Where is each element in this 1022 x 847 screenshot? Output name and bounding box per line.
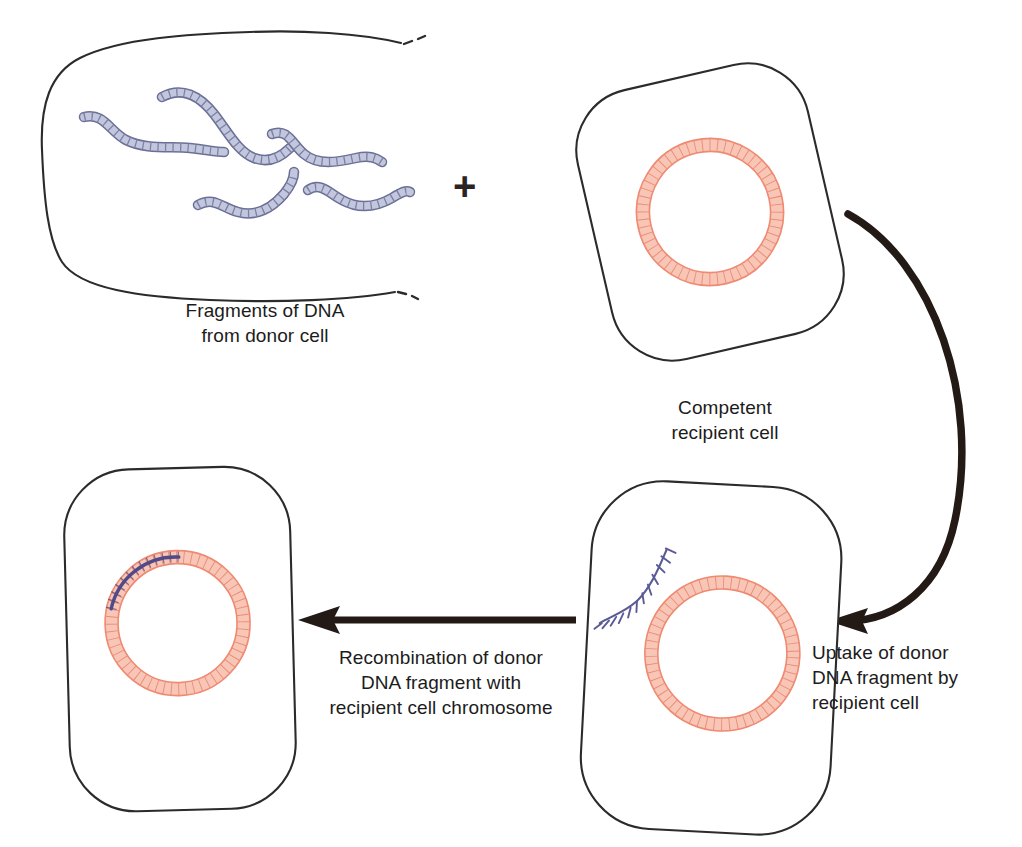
recombination-arrow	[298, 606, 576, 634]
dna-fragment	[84, 116, 224, 152]
uptake-cell-outline	[577, 478, 845, 839]
competent-cell-label: Competent recipient cell	[600, 395, 850, 445]
competent-cell	[564, 51, 856, 373]
recombinant-cell-outline	[63, 465, 298, 813]
donor-cell-tear-top	[404, 36, 425, 44]
dna-fragment	[198, 172, 294, 213]
recombination-label: Recombination of donor DNA fragment with…	[296, 645, 586, 720]
dna-fragment	[308, 187, 410, 206]
plus-icon: +	[453, 166, 476, 206]
competent-cell-outline	[564, 51, 856, 373]
recombinant-cell	[63, 465, 298, 813]
donor-cell-outline	[42, 31, 401, 301]
transformation-diagram: + Fragments of DNA from donor cell Compe…	[0, 0, 1022, 847]
uptake-label: Uptake of donor DNA fragment by recipien…	[812, 640, 1022, 715]
donor-cell	[42, 31, 425, 301]
uptake-cell	[577, 478, 845, 839]
donor-cell-label: Fragments of DNA from donor cell	[120, 298, 410, 348]
